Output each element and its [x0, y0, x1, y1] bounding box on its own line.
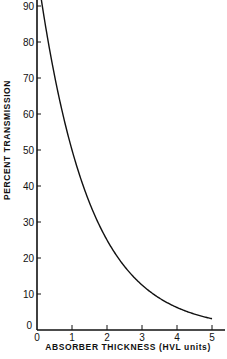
- transmission-curve: [41, 0, 212, 319]
- y-tick-label: 70: [23, 73, 35, 84]
- x-tick-label: 0: [34, 332, 40, 343]
- y-tick-label: 20: [23, 253, 35, 264]
- axes: [37, 0, 225, 330]
- y-tick-label: 90: [23, 1, 35, 12]
- y-tick-label: 80: [23, 37, 35, 48]
- x-axis-label: ABSORBER THICKNESS (HVL units): [45, 342, 211, 352]
- chart: 0102030405060708090012345 ABSORBER THICK…: [0, 0, 227, 359]
- y-tick-label: 30: [23, 217, 35, 228]
- y-tick-label: 10: [23, 289, 35, 300]
- y-tick-label: 0: [26, 320, 32, 331]
- ticks: 0102030405060708090012345: [23, 1, 215, 344]
- y-axis-label: PERCENT TRANSMISSION: [2, 80, 12, 200]
- y-tick-label: 50: [23, 145, 35, 156]
- y-tick-label: 40: [23, 181, 35, 192]
- y-tick-label: 60: [23, 109, 35, 120]
